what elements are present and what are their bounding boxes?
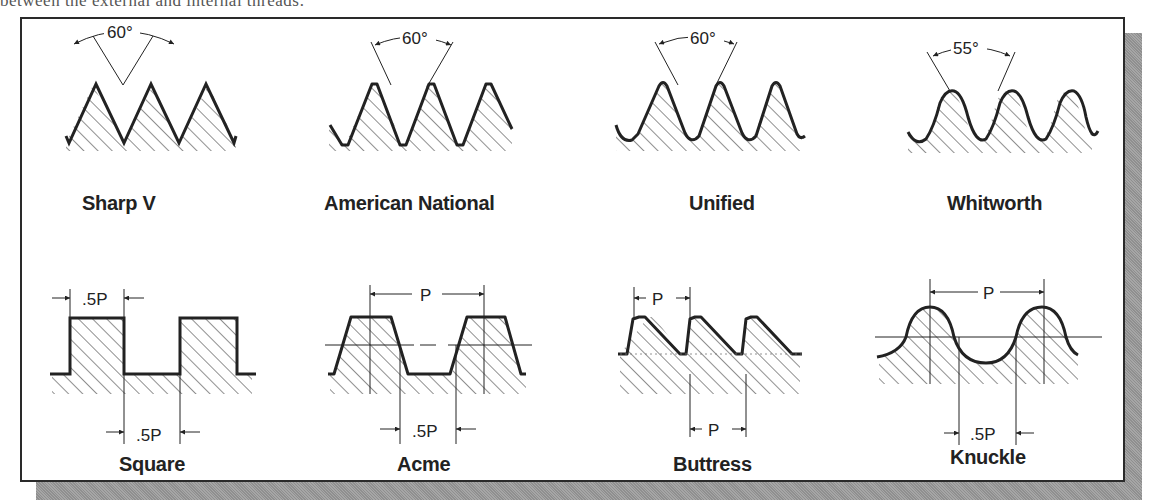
thread-label: Acme	[397, 453, 450, 476]
pitch-label: P	[983, 284, 994, 303]
pitch-label: P	[652, 290, 663, 309]
pitch-label: .5P	[970, 425, 996, 444]
angle-label: 60°	[402, 29, 428, 48]
thread-label: Square	[119, 453, 185, 476]
pitch-label: P	[420, 286, 431, 305]
pitch-label: P	[708, 421, 719, 440]
thread-label: Unified	[689, 192, 755, 215]
thread-square: .5P .5P Square	[22, 249, 292, 489]
angle-label: 55°	[953, 39, 979, 58]
thread-american-national: 60° American National	[302, 19, 582, 239]
angle-label: 60°	[690, 29, 716, 48]
thread-forms-figure: 60° Sharp V 60° American National 60° Un…	[20, 17, 1125, 482]
thread-buttress: P P Buttress	[582, 249, 862, 489]
thread-unified: 60° Unified	[582, 19, 862, 239]
thread-label: Buttress	[673, 453, 752, 476]
angle-label: 60°	[107, 23, 133, 42]
pitch-label: .5P	[136, 426, 162, 445]
thread-label: Whitworth	[947, 192, 1042, 215]
partial-caption-text: between the external and internal thread…	[0, 0, 700, 7]
thread-sharp-v: 60° Sharp V	[22, 19, 292, 239]
thread-label: Knuckle	[950, 446, 1026, 469]
thread-knuckle: P .5P Knuckle	[862, 249, 1123, 489]
thread-acme: P .5P Acme	[302, 249, 582, 489]
thread-whitworth: 55° Whitworth	[862, 19, 1123, 239]
pitch-label: .5P	[82, 290, 108, 309]
thread-label: American National	[324, 192, 495, 215]
pitch-label: .5P	[412, 422, 438, 441]
thread-label: Sharp V	[82, 192, 155, 215]
sharp-v-drawing: 60°	[22, 19, 292, 239]
